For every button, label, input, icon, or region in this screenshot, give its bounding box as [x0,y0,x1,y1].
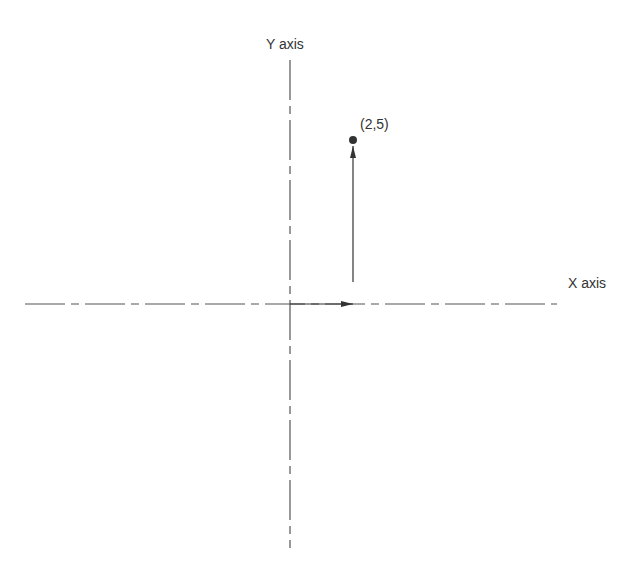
diagram-canvas [0,0,635,561]
point-label: (2,5) [360,116,389,132]
point-marker [349,136,357,144]
x-axis-label: X axis [568,275,606,291]
y-axis-label: Y axis [266,36,304,52]
